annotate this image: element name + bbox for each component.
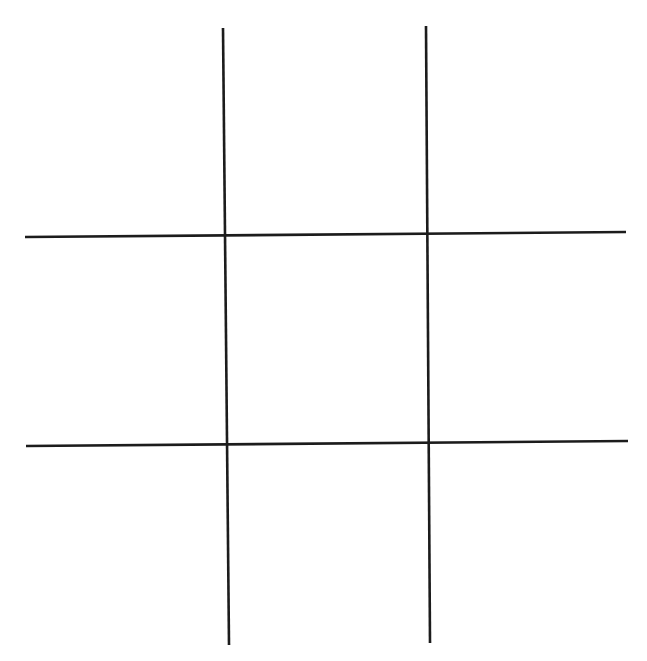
cell-r1-c1[interactable] (227, 237, 428, 443)
cell-r2-c2[interactable] (431, 443, 628, 643)
cell-r0-c1[interactable] (226, 28, 426, 234)
cell-r1-c0[interactable] (26, 238, 225, 445)
tic-tac-toe-board (0, 0, 647, 661)
cell-r0-c2[interactable] (429, 28, 626, 233)
cell-r2-c1[interactable] (229, 446, 429, 644)
cell-r1-c2[interactable] (430, 235, 627, 441)
cell-r0-c0[interactable] (26, 28, 224, 235)
cell-r2-c0[interactable] (26, 448, 227, 645)
